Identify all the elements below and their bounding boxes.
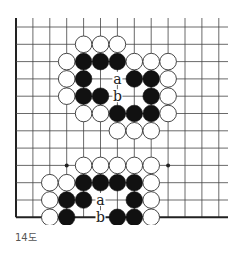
- go-board-diagram: abab: [0, 0, 240, 225]
- point-label-b: b: [96, 209, 105, 225]
- white-stone: [92, 36, 109, 53]
- white-stone: [160, 53, 177, 70]
- white-stone: [109, 157, 126, 174]
- white-stone: [126, 123, 143, 140]
- white-stone: [143, 123, 160, 140]
- white-stone: [143, 192, 160, 209]
- white-stone: [75, 105, 92, 122]
- star-point-icon: [166, 163, 170, 167]
- white-stone: [160, 88, 177, 105]
- white-stone: [109, 123, 126, 140]
- black-stone: [126, 209, 143, 225]
- black-stone: [58, 209, 75, 225]
- white-stone: [143, 209, 160, 225]
- white-stone: [92, 157, 109, 174]
- white-stone: [160, 105, 177, 122]
- diagram-caption: 14도: [15, 229, 37, 244]
- white-stone: [92, 105, 109, 122]
- white-stone: [143, 53, 160, 70]
- white-stone: [58, 71, 75, 88]
- black-stone: [92, 174, 109, 191]
- white-stone: [42, 209, 59, 225]
- white-stone: [75, 36, 92, 53]
- black-stone: [109, 174, 126, 191]
- white-stone: [42, 192, 59, 209]
- black-stone: [75, 174, 92, 191]
- white-stone: [160, 71, 177, 88]
- black-stone: [143, 105, 160, 122]
- white-stone: [126, 157, 143, 174]
- black-stone: [126, 71, 143, 88]
- white-stone: [58, 53, 75, 70]
- black-stone: [126, 192, 143, 209]
- white-stone: [58, 174, 75, 191]
- black-stone: [58, 192, 75, 209]
- black-stone: [109, 53, 126, 70]
- black-stone: [109, 209, 126, 225]
- black-stone: [143, 71, 160, 88]
- black-stone: [75, 192, 92, 209]
- black-stone: [126, 105, 143, 122]
- white-stone: [109, 36, 126, 53]
- point-label-b: b: [113, 88, 122, 104]
- white-stone: [126, 53, 143, 70]
- point-label-a: a: [113, 71, 121, 87]
- black-stone: [126, 174, 143, 191]
- white-stone: [143, 157, 160, 174]
- black-stone: [92, 53, 109, 70]
- black-stone: [109, 105, 126, 122]
- point-label-a: a: [96, 192, 104, 208]
- star-point-icon: [65, 163, 69, 167]
- black-stone: [143, 88, 160, 105]
- black-stone: [92, 88, 109, 105]
- black-stone: [75, 53, 92, 70]
- white-stone: [58, 88, 75, 105]
- black-stone: [75, 71, 92, 88]
- white-stone: [42, 174, 59, 191]
- black-stone: [75, 88, 92, 105]
- white-stone: [75, 157, 92, 174]
- white-stone: [143, 174, 160, 191]
